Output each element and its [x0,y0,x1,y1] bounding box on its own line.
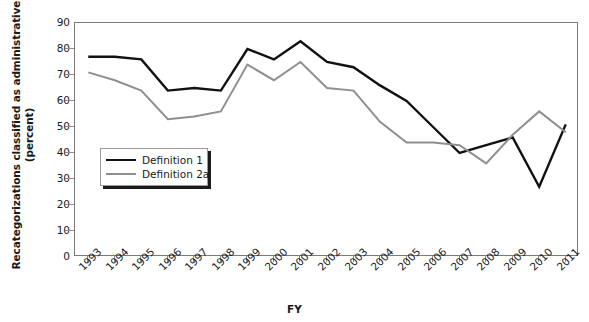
y-tick-label: 90 [44,17,70,28]
y-axis-title-line1: Recategorizations classified as administ… [10,1,22,270]
legend-swatch-definition-2a [106,173,136,175]
legend-label-definition-2a: Definition 2a [142,168,209,180]
legend-item-definition-2a: Definition 2a [106,167,202,181]
y-tickmark [65,178,74,179]
legend-swatch-definition-1 [106,159,136,161]
y-tick-label: 0 [44,251,70,262]
y-tickmark [65,230,74,231]
x-axis-title: FY [0,303,589,315]
y-axis-title-line2: (percent) [23,1,36,270]
legend-label-definition-1: Definition 1 [142,154,203,166]
chart-figure: Recategorizations classified as administ… [0,0,589,322]
y-tickmark [65,152,74,153]
plot-area [74,22,578,256]
y-tickmark [65,100,74,101]
chart-legend: Definition 1 Definition 2a [100,148,208,186]
plot-lines [75,23,579,257]
y-tickmark [65,74,74,75]
y-tickmark [65,126,74,127]
y-tickmark [65,204,74,205]
y-axis-title: Recategorizations classified as administ… [0,0,46,270]
legend-item-definition-1: Definition 1 [106,153,202,167]
y-tickmark [65,48,74,49]
